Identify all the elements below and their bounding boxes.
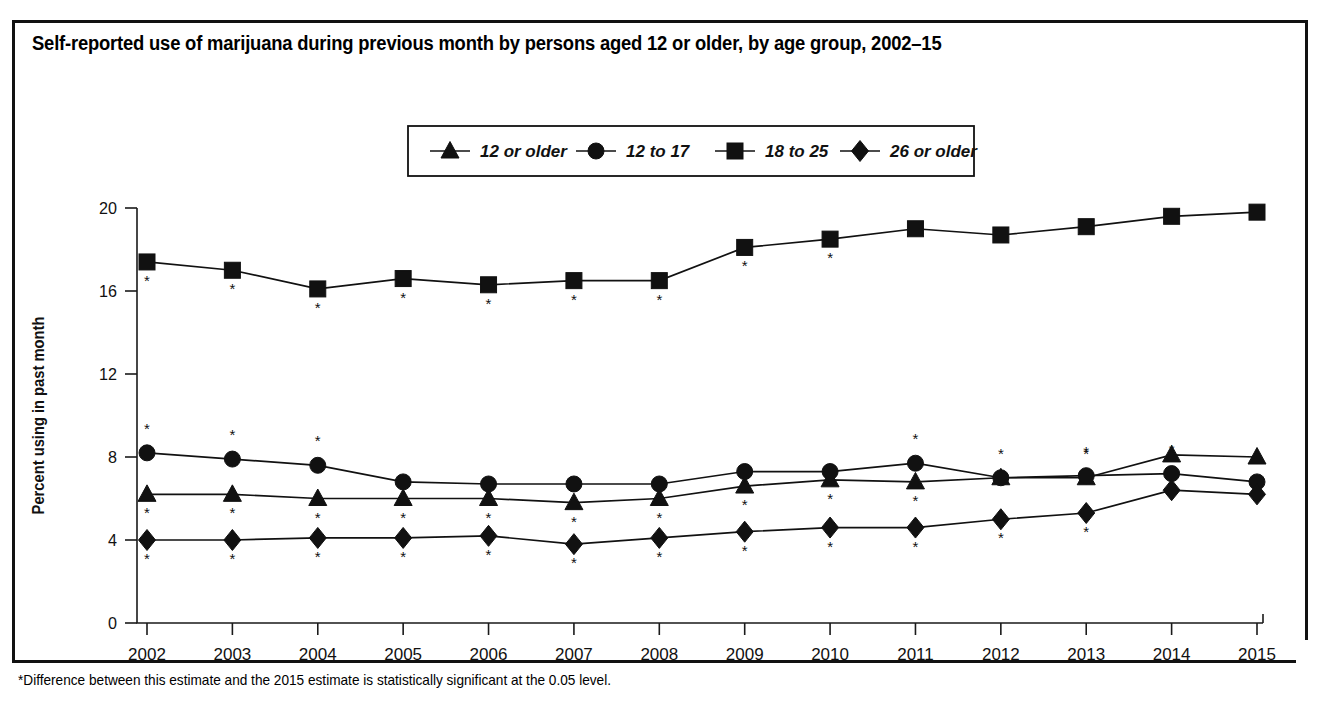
significance-asterisk: * (998, 529, 1004, 546)
significance-asterisk: * (144, 550, 150, 567)
data-point-diamond (822, 517, 839, 538)
x-tick-label: 2008 (640, 645, 678, 664)
significance-asterisk: * (571, 291, 577, 308)
chart-footnote: *Difference between this estimate and th… (18, 672, 1221, 688)
legend-label: 26 or older (889, 142, 978, 161)
y-tick-label: 4 (108, 531, 117, 550)
data-point-square (481, 277, 497, 293)
data-point-square (1164, 208, 1180, 224)
significance-asterisk: * (656, 548, 662, 565)
data-point-diamond (309, 527, 326, 548)
series-12-or-older: ************ (138, 445, 1266, 530)
data-point-diamond (224, 530, 241, 551)
data-point-triangle (223, 485, 241, 502)
data-point-circle (139, 445, 155, 461)
significance-asterisk: * (913, 430, 919, 447)
significance-asterisk: * (913, 492, 919, 509)
significance-asterisk: * (144, 272, 150, 289)
data-point-circle (395, 474, 411, 490)
significance-asterisk: * (315, 299, 321, 316)
data-point-circle (907, 455, 923, 471)
y-tick-label: 20 (99, 199, 117, 218)
legend-label: 18 to 25 (765, 142, 829, 161)
significance-asterisk: * (1083, 523, 1089, 540)
data-point-diamond (736, 521, 753, 542)
legend-item-18-to-25[interactable]: 18 to 25 (715, 142, 829, 161)
x-tick-label: 2014 (1153, 645, 1191, 664)
data-point-circle (1078, 468, 1094, 484)
data-point-diamond (139, 530, 156, 551)
data-point-square (822, 231, 838, 247)
significance-asterisk: * (144, 420, 150, 437)
data-point-circle (224, 451, 240, 467)
x-tick-label: 2002 (128, 645, 166, 664)
significance-asterisk: * (742, 257, 748, 274)
significance-asterisk: * (229, 280, 235, 297)
data-point-square (907, 221, 923, 237)
data-point-diamond (907, 517, 924, 538)
data-point-square (224, 262, 240, 278)
data-point-circle (310, 457, 326, 473)
data-point-circle (822, 464, 838, 480)
significance-asterisk: * (571, 554, 577, 571)
data-point-diamond (1163, 480, 1180, 501)
data-point-triangle (565, 493, 583, 510)
significance-asterisk: * (144, 504, 150, 521)
y-tick-label: 16 (99, 282, 117, 301)
significance-asterisk: * (315, 548, 321, 565)
significance-asterisk: * (229, 550, 235, 567)
significance-asterisk: * (486, 295, 492, 312)
data-point-diamond (1078, 503, 1095, 524)
significance-asterisk: * (1169, 441, 1175, 458)
data-point-triangle (309, 489, 327, 506)
significance-asterisk: * (486, 509, 492, 526)
x-tick-label: 2007 (555, 645, 593, 664)
x-tick-label: 2012 (982, 645, 1020, 664)
x-tick-label: 2011 (897, 645, 934, 664)
chart-axes (137, 208, 1263, 623)
x-tick-label: 2005 (384, 645, 422, 664)
data-point-square (1249, 204, 1265, 220)
x-tick-label: 2015 (1238, 645, 1276, 664)
data-point-diamond (480, 525, 497, 546)
legend-item-26-or-older[interactable]: 26 or older (840, 141, 978, 162)
significance-asterisk: * (998, 445, 1004, 462)
data-point-circle (737, 464, 753, 480)
data-point-square (566, 273, 582, 289)
data-point-diamond (395, 527, 412, 548)
legend-label: 12 or older (480, 142, 568, 161)
legend-label: 12 to 17 (626, 142, 691, 161)
x-tick-label: 2009 (726, 645, 764, 664)
data-point-triangle (394, 489, 412, 506)
legend-marker-square (727, 143, 743, 159)
data-point-circle (566, 476, 582, 492)
x-tick-label: 2013 (1067, 645, 1105, 664)
significance-asterisk: * (913, 538, 919, 555)
data-point-square (395, 271, 411, 287)
y-tick-label: 0 (108, 614, 117, 633)
x-tick-label: 2003 (213, 645, 251, 664)
legend-item-12-to-17[interactable]: 12 to 17 (576, 142, 691, 161)
series-18-to-25: ********* (139, 204, 1265, 316)
figure-page: Self-reported use of marijuana during pr… (0, 0, 1326, 703)
significance-asterisk: * (1083, 443, 1089, 460)
significance-asterisk: * (742, 496, 748, 513)
significance-asterisk: * (400, 509, 406, 526)
line-chart: 048121620Percent using in past month2002… (0, 0, 1326, 703)
data-point-square (651, 273, 667, 289)
significance-asterisk: * (400, 289, 406, 306)
data-point-square (310, 281, 326, 297)
legend-marker-circle (588, 143, 604, 159)
y-axis-title: Percent using in past month (29, 317, 47, 515)
data-point-square (993, 227, 1009, 243)
y-tick-label: 8 (108, 448, 117, 467)
data-point-circle (481, 476, 497, 492)
series-12-to-17: ****** (139, 420, 1265, 492)
data-point-diamond (651, 527, 668, 548)
data-point-circle (993, 470, 1009, 486)
significance-asterisk: * (656, 509, 662, 526)
legend-item-12-or-older[interactable]: 12 or older (430, 142, 568, 162)
data-point-diamond (565, 534, 582, 555)
significance-asterisk: * (486, 546, 492, 563)
significance-asterisk: * (827, 249, 833, 266)
